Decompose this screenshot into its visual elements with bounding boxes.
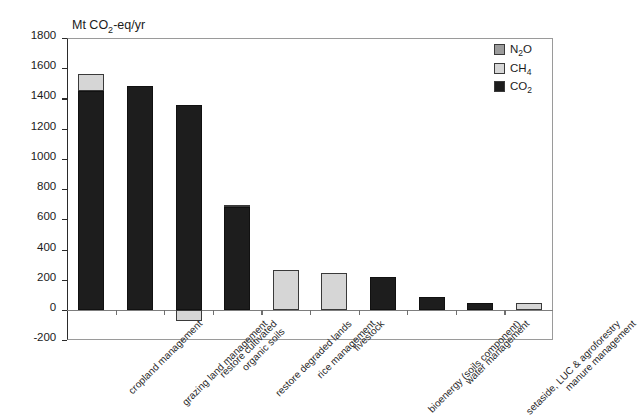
bar-segment-ch4 [516,303,542,310]
bar-segment-ch4 [78,74,104,91]
y-axis-tick-mark [62,340,67,341]
x-axis-tick-mark [407,310,408,315]
category-label-line: manure management [563,318,638,393]
x-axis-tick-mark [504,310,505,315]
x-axis-tick-mark [116,310,117,315]
y-axis-tick-label: 1600 [31,60,56,72]
y-axis-tick-mark [62,219,67,220]
legend-swatch-icon [494,44,505,55]
x-axis-category-label: manure management [563,318,638,393]
axis-title: Mt CO2-eq/yr [72,19,145,32]
y-axis-tick-label: 200 [37,272,56,284]
legend-item: N2O [494,44,532,56]
bar-segment-co2 [78,91,104,310]
y-axis-tick-mark [62,68,67,69]
y-axis-tick-mark [62,310,67,311]
y-axis-tick-mark [62,98,67,99]
x-axis-tick-mark [164,310,165,315]
bar-segment-co2 [127,86,153,310]
legend-label: CO2 [510,81,532,93]
x-axis-tick-mark [310,310,311,315]
y-axis-tick-label: 600 [37,211,56,223]
y-axis-tick-label: 1200 [31,121,56,133]
y-axis-tick-label: 400 [37,242,56,254]
legend-item: CO2 [494,81,532,93]
bar-segment-ch4 [224,205,250,207]
y-axis-tick-mark [62,189,67,190]
legend: N2OCH4CO2 [494,44,532,93]
y-axis-tick-label: 0 [50,302,56,314]
y-axis-tick-mark [62,250,67,251]
y-axis-tick-label: 1000 [31,151,56,163]
bar-segment-co2 [224,207,250,310]
legend-label: CH4 [510,63,531,75]
bar-segment-co2 [419,297,445,310]
bar-segment-co2 [370,277,396,310]
x-axis-tick-mark [359,310,360,315]
x-axis-tick-mark [213,310,214,315]
legend-item: CH4 [494,63,532,75]
y-axis-tick-label: 1400 [31,90,56,102]
y-axis-tick-mark [62,159,67,160]
bar-segment-ch4 [273,270,299,310]
y-axis-tick-label: -200 [33,332,56,344]
legend-label: N2O [510,44,532,56]
axis-title-text: Mt CO2-eq/yr [72,18,145,32]
bar-segment-co2 [176,105,202,310]
x-axis-tick-mark [456,310,457,315]
legend-swatch-icon [494,81,505,92]
legend-swatch-icon [494,63,505,74]
y-axis-tick-mark [62,129,67,130]
y-axis-tick-mark [62,280,67,281]
y-axis-tick-mark [62,38,67,39]
y-axis-tick-label: 800 [37,181,56,193]
y-axis-tick-label: 1800 [31,30,56,42]
bar-segment-ch4 [321,273,347,310]
bar-segment-co2 [467,303,493,310]
x-axis-tick-mark [261,310,262,315]
